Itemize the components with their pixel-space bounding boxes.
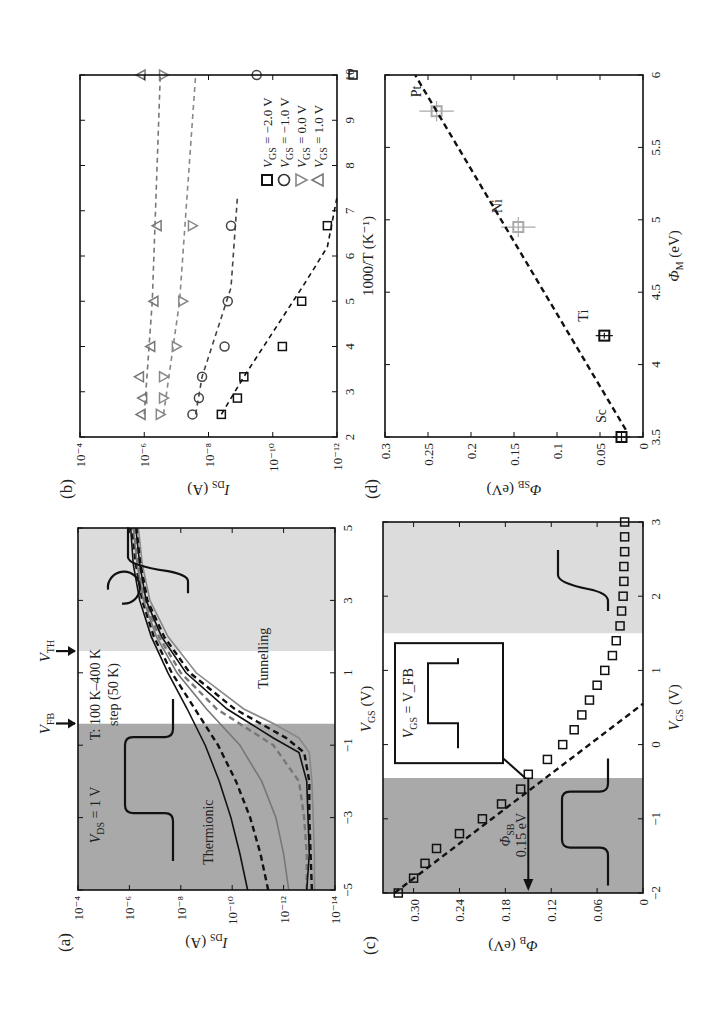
figure-rotated-container: −5−3−113510⁻¹⁴10⁻¹²10⁻¹⁰10⁻⁸10⁻⁶10⁻⁴VGS … <box>0 0 717 1011</box>
svg-text:ΦM (eV): ΦM (eV) <box>666 230 685 282</box>
panel-c: −2−1012300.060.120.180.240.30VGS (V)ΦB (… <box>360 518 685 955</box>
x-tick-label: 2 <box>342 434 357 441</box>
y-tick-label: 10⁻⁸ <box>174 896 189 921</box>
x-tick-label: 4.5 <box>648 284 663 300</box>
x-tick-label: 10 <box>342 69 357 82</box>
region-shading <box>383 522 643 633</box>
fit-line <box>221 197 337 414</box>
svg-text:VGS (V): VGS (V) <box>358 686 377 733</box>
x-tick-label: 9 <box>342 117 357 124</box>
point-label: Sc <box>594 409 609 423</box>
x-tick-label: −5 <box>340 883 355 897</box>
svg-text:T: 100 K–400 K: T: 100 K–400 K <box>88 649 103 740</box>
x-tick-label: 5 <box>648 217 663 224</box>
svg-text:0.15 eV: 0.15 eV <box>514 813 529 857</box>
svg-text:VGS = 1.0 V: VGS = 1.0 V <box>311 104 329 168</box>
x-tick-label: 6 <box>342 252 357 259</box>
x-tick-label: 8 <box>342 162 357 169</box>
x-tick-label: 3 <box>648 519 663 526</box>
panel-label: (b) <box>57 479 76 499</box>
y-tick-label: 0.30 <box>407 899 422 922</box>
x-tick-label: 3 <box>342 389 357 396</box>
svg-text:Tunnelling: Tunnelling <box>256 628 271 689</box>
x-tick-label: 4 <box>648 361 663 368</box>
x-tick-label: 5 <box>342 298 357 305</box>
y-tick-label: 0 <box>636 443 651 450</box>
svg-text:ΦSB (eV): ΦSB (eV) <box>487 479 542 498</box>
x-tick-label: −1 <box>648 812 663 826</box>
y-tick-label: 10⁻⁶ <box>122 896 137 920</box>
y-tick-label: 10⁻⁴ <box>71 896 86 921</box>
x-tick-label: 5.5 <box>648 139 663 155</box>
y-tick-label: 10⁻¹² <box>277 896 292 924</box>
region-shading <box>78 528 335 651</box>
svg-text:IDS (A): IDS (A) <box>185 932 228 951</box>
x-tick-label: −3 <box>340 811 355 825</box>
figure-canvas: −5−3−113510⁻¹⁴10⁻¹²10⁻¹⁰10⁻⁸10⁻⁶10⁻⁴VGS … <box>0 0 717 1011</box>
y-tick-label: 0.1 <box>550 443 565 459</box>
y-tick-label: 0.3 <box>378 443 393 459</box>
y-tick-label: 0.25 <box>421 443 436 466</box>
x-tick-label: 2 <box>648 593 663 600</box>
x-tick-label: 3 <box>340 597 355 604</box>
y-tick-label: 0.18 <box>498 899 513 922</box>
y-tick-label: 10⁻⁶ <box>137 443 152 467</box>
series-line <box>415 75 626 430</box>
svg-text:VGS (V): VGS (V) <box>666 684 685 731</box>
svg-text:IDS (A): IDS (A) <box>187 479 230 498</box>
y-tick-label: 10⁻⁸ <box>202 443 217 468</box>
svg-text:VFB: VFB <box>37 712 56 734</box>
panel-label: (d) <box>362 479 381 499</box>
x-tick-label: 0 <box>648 741 663 748</box>
panel-d: ScTiNiPt3.544.555.5600.050.10.150.20.250… <box>362 71 685 499</box>
y-tick-label: 10⁻¹⁰ <box>266 443 281 472</box>
x-tick-label: 7 <box>342 207 357 214</box>
fit-line <box>164 75 196 414</box>
panel-label: (a) <box>55 933 74 952</box>
x-tick-label: −1 <box>340 738 355 752</box>
y-tick-label: 0.15 <box>507 443 522 466</box>
panel-a: −5−3−113510⁻¹⁴10⁻¹²10⁻¹⁰10⁻⁸10⁻⁶10⁻⁴VGS … <box>37 525 377 952</box>
y-tick-label: 0 <box>636 899 651 906</box>
y-tick-label: 0.06 <box>590 899 605 922</box>
y-tick-label: 10⁻¹² <box>330 443 345 471</box>
x-tick-label: 5 <box>340 525 355 532</box>
x-tick-label: 1 <box>340 670 355 677</box>
svg-text:Thermionic: Thermionic <box>201 799 216 864</box>
fit-line <box>144 75 160 414</box>
y-tick-label: 10⁻¹⁰ <box>225 896 240 925</box>
x-tick-label: −2 <box>648 886 663 900</box>
y-tick-label: 0.24 <box>452 899 467 922</box>
point-label: Ti <box>576 310 591 322</box>
svg-text:VGS = 0.0 V: VGS = 0.0 V <box>294 104 312 168</box>
x-tick-label: 4 <box>342 343 357 350</box>
svg-text:VGS = −2.0 V: VGS = −2.0 V <box>260 97 278 168</box>
point-label: Pt <box>409 85 424 97</box>
svg-text:ΦB (eV): ΦB (eV) <box>488 935 537 954</box>
x-tick-label: 6 <box>648 71 663 78</box>
y-tick-label: 0.2 <box>464 443 479 459</box>
x-tick-label: 1 <box>648 667 663 674</box>
y-tick-label: 10⁻¹⁴ <box>328 896 343 925</box>
axes-frame <box>385 75 643 437</box>
y-tick-label: 0.05 <box>593 443 608 466</box>
svg-text:VGS = −1.0 V: VGS = −1.0 V <box>277 97 295 168</box>
y-tick-label: 10⁻⁴ <box>73 443 88 468</box>
svg-text:step (50 K): step (50 K) <box>106 663 122 726</box>
svg-text:VTH: VTH <box>37 640 56 663</box>
y-tick-label: 0.12 <box>544 899 559 922</box>
panel-b: 234567891010⁻¹²10⁻¹⁰10⁻⁸10⁻⁶10⁻⁴1000/T (… <box>57 69 377 500</box>
panel-label: (c) <box>360 936 379 955</box>
svg-text:1000/T (K⁻¹): 1000/T (K⁻¹) <box>360 216 377 296</box>
